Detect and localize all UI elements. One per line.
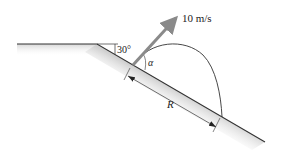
- velocity-label: 10 m/s: [182, 12, 212, 24]
- ground-shading: [17, 44, 265, 150]
- slope-angle-label: 30°: [117, 44, 131, 55]
- projectile-incline-diagram: 30° α 10 m/s R: [0, 0, 283, 157]
- range-label: R: [166, 98, 174, 110]
- velocity-arrow: [133, 18, 176, 65]
- launch-angle-label: α: [148, 57, 154, 68]
- launch-angle-arc: [143, 54, 146, 70]
